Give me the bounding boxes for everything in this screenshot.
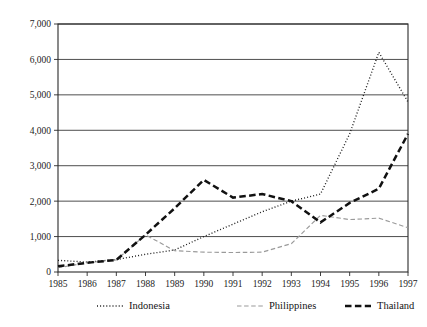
series-line-thailand <box>58 134 408 266</box>
chart-canvas: 01,0002,0003,0004,0005,0006,0007,000 198… <box>0 0 427 327</box>
x-axis-tick-label: 1987 <box>107 279 126 289</box>
chart-legend: IndonesiaPhilippinesThailand <box>97 300 415 311</box>
y-axis-tick-label: 1,000 <box>30 232 52 242</box>
x-axis-tick-label: 1986 <box>78 279 97 289</box>
y-axis-tick-label: 2,000 <box>30 197 52 207</box>
plot-border <box>58 24 408 272</box>
y-axis-ticks-group: 01,0002,0003,0004,0005,0006,0007,000 <box>30 19 58 277</box>
legend-label-thailand: Thailand <box>377 300 415 311</box>
y-axis-tick-label: 7,000 <box>30 19 52 29</box>
y-axis-tick-label: 0 <box>46 267 51 277</box>
data-series-group <box>58 52 408 267</box>
x-axis-tick-label: 1990 <box>194 279 213 289</box>
x-axis-tick-label: 1989 <box>165 279 184 289</box>
y-axis-tick-label: 4,000 <box>30 126 52 136</box>
x-axis-ticks-group: 1985198619871988198919901991199219931994… <box>49 272 418 289</box>
x-axis-tick-label: 1994 <box>311 279 330 289</box>
x-axis-tick-label: 1992 <box>253 279 272 289</box>
y-axis-tick-label: 5,000 <box>30 90 52 100</box>
x-axis-tick-label: 1988 <box>136 279 155 289</box>
series-line-indonesia <box>58 52 408 262</box>
plot-frame <box>58 24 408 272</box>
x-axis-tick-label: 1991 <box>224 279 243 289</box>
legend-label-philippines: Philippines <box>269 300 316 311</box>
x-axis-tick-label: 1995 <box>340 279 359 289</box>
y-axis-tick-label: 3,000 <box>30 161 52 171</box>
x-axis-tick-label: 1993 <box>282 279 301 289</box>
legend-label-indonesia: Indonesia <box>129 300 170 311</box>
x-axis-tick-label: 1996 <box>369 279 388 289</box>
y-axis-tick-label: 6,000 <box>30 55 52 65</box>
x-axis-tick-label: 1985 <box>49 279 68 289</box>
x-axis-tick-label: 1997 <box>399 279 418 289</box>
gridlines-group <box>58 24 408 237</box>
line-chart-figure: 01,0002,0003,0004,0005,0006,0007,000 198… <box>0 0 427 327</box>
